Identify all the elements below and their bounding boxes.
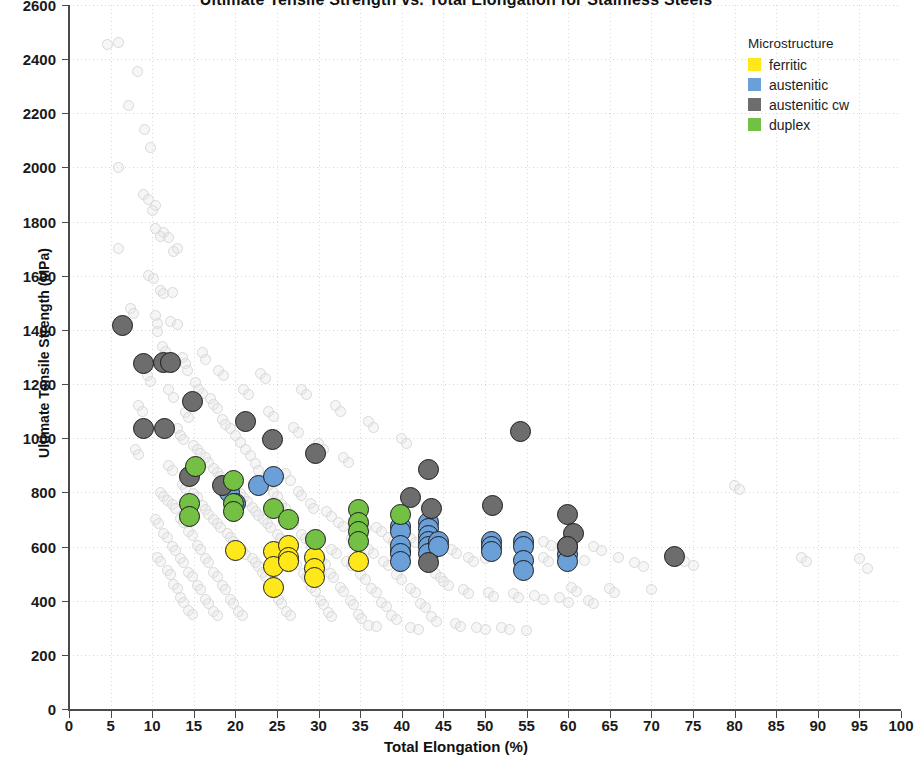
data-point-background [563,597,574,608]
data-point-background [854,553,865,564]
data-point-background [172,319,183,330]
data-point-background [401,438,412,449]
data-point-background [391,614,402,625]
data-point-background [187,609,198,620]
x-tick-label-80: 80 [715,718,755,733]
data-point-duplex [390,504,411,525]
data-point-background [368,422,379,433]
y-axis-title: Ultimate Tensile Strength (MPa) [36,213,52,493]
data-point-background [260,373,271,384]
data-point-austeniticcw [557,504,578,525]
data-point-austeniticcw [305,443,326,464]
data-point-background [152,326,163,337]
legend-item-duplex[interactable]: duplex [748,115,904,135]
legend-swatch-duplex-icon [748,118,761,131]
y-tick [62,167,69,168]
data-point-background [468,556,479,567]
data-point-ferritic [278,551,299,572]
data-point-austeniticcw [262,429,283,450]
x-tick-label-75: 75 [673,718,713,733]
x-tick-label-65: 65 [590,718,630,733]
gridline-horizontal [69,601,901,602]
gridline-vertical [735,5,736,709]
y-tick [62,709,69,710]
data-point-background [431,616,442,627]
data-point-background [137,406,148,417]
y-tick [62,601,69,602]
y-tick-label-2600: 2600 [0,0,56,13]
data-point-background [413,624,424,635]
x-tick-label-0: 0 [49,718,89,733]
data-point-background [145,142,156,153]
data-point-background [646,584,657,595]
data-point-ferritic [304,567,325,588]
data-point-background [147,205,158,216]
y-tick-label-2400: 2400 [0,52,56,67]
data-point-background [596,545,607,556]
data-point-background [243,389,254,400]
data-point-background [145,376,156,387]
y-tick-label-400: 400 [0,594,56,609]
data-point-background [410,587,421,598]
data-point-background [588,598,599,609]
y-tick [62,5,69,6]
x-tick-label-20: 20 [215,718,255,733]
data-point-austenitic [263,466,284,487]
legend-item-ferritic[interactable]: ferritic [748,55,904,75]
data-point-background [308,503,319,514]
data-point-background [167,287,178,298]
data-point-background [335,406,346,417]
data-point-background [212,610,223,621]
data-point-background [237,610,248,621]
gridline-horizontal [69,167,901,168]
gridline-horizontal [69,330,901,331]
x-tick-label-90: 90 [798,718,838,733]
x-tick-label-85: 85 [756,718,796,733]
x-tick-label-35: 35 [340,718,380,733]
x-tick-label-55: 55 [507,718,547,733]
x-tick-label-10: 10 [132,718,172,733]
legend-item-austeniticcw[interactable]: austenitic cw [748,95,904,115]
gridline-vertical [651,5,652,709]
data-point-background [139,124,150,135]
legend-entries: ferriticausteniticaustenitic cwduplex [748,55,904,135]
data-point-duplex [223,501,244,522]
legend-label: ferritic [769,58,807,72]
data-point-background [688,560,699,571]
data-point-background [862,563,873,574]
data-point-background [133,449,144,460]
data-point-background [102,39,113,50]
data-point-duplex [348,531,369,552]
gridline-horizontal [69,276,901,277]
data-point-background [343,457,354,468]
y-tick [62,113,69,114]
y-axis-line [68,5,70,710]
data-point-background [172,243,183,254]
data-point-austenitic [481,541,502,562]
y-tick-label-0: 0 [0,702,56,717]
legend-item-austenitic[interactable]: austenitic [748,75,904,95]
gridline-vertical [360,5,361,709]
x-tick-label-40: 40 [382,718,422,733]
data-point-austeniticcw [160,352,181,373]
data-point-background [579,555,590,566]
y-tick [62,492,69,493]
data-point-background [285,475,296,486]
gridline-horizontal [69,222,901,223]
data-point-austeniticcw [421,498,442,519]
x-tick-label-95: 95 [839,718,879,733]
data-point-background [113,162,124,173]
gridline-vertical [527,5,528,709]
data-point-austeniticcw [235,411,256,432]
gridline-vertical [610,5,611,709]
x-tick-label-15: 15 [174,718,214,733]
gridline-horizontal [69,438,901,439]
data-point-background [301,389,312,400]
data-point-background [521,625,532,636]
x-tick-label-60: 60 [548,718,588,733]
gridline-vertical [443,5,444,709]
legend-label: austenitic [769,78,828,92]
gridline-vertical [693,5,694,709]
data-point-background [293,427,304,438]
